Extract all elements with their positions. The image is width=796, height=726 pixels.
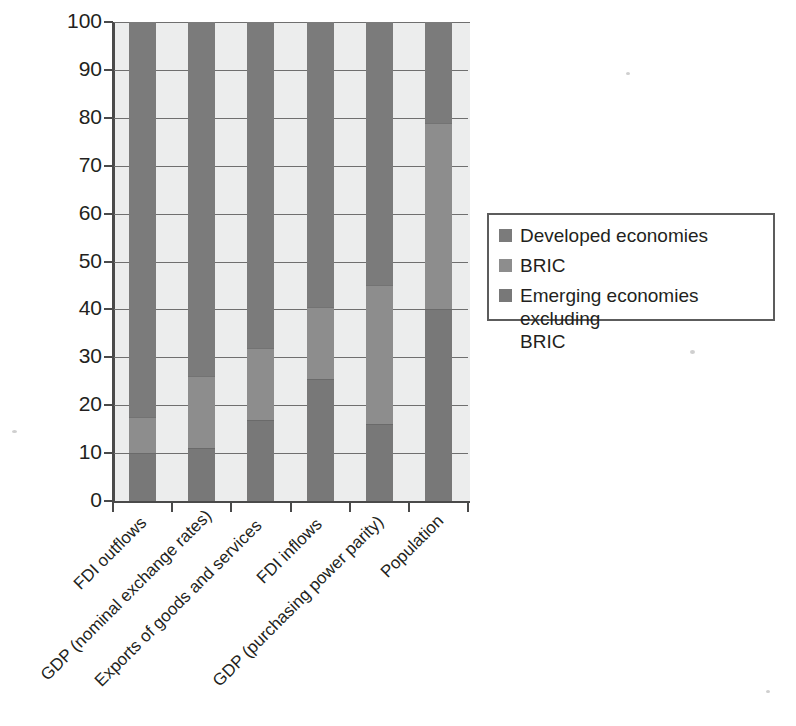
bar-gdp-purchasing-power-parity[interactable] [366,22,393,501]
segment-divider [129,453,156,454]
bar-segment-emerging [129,453,156,501]
legend-swatch-icon-developed [499,229,512,242]
y-tick-60 [104,213,113,215]
y-tick-label-30: 30 [58,345,102,366]
segment-divider [425,123,452,124]
segment-divider [307,307,334,308]
scan-speck [626,72,630,75]
legend-item-emerging-economies: Emerging economies excluding BRIC [499,284,763,353]
y-tick-40 [104,308,113,310]
y-tick-100 [104,21,113,23]
bars-layer [113,22,468,501]
segment-divider [307,379,334,380]
segment-divider [247,420,274,421]
y-tick-90 [104,69,113,71]
bar-segment-developed [188,22,215,376]
y-tick-80 [104,117,113,119]
y-tick-10 [104,452,113,454]
bar-segment-developed [366,22,393,285]
y-tick-70 [104,165,113,167]
legend-label-developed: Developed economies [520,224,708,247]
y-tick-label-90: 90 [58,58,102,79]
bar-exports-of-goods-and-services[interactable] [247,22,274,501]
segment-divider [188,448,215,449]
legend-item-developed-economies: Developed economies [499,224,763,247]
bar-segment-emerging [188,448,215,501]
bar-population[interactable] [425,22,452,501]
y-tick-label-20: 20 [58,393,102,414]
legend-item-bric: BRIC [499,254,763,277]
legend-label-emerging-line2: BRIC [520,330,752,353]
bar-segment-bric [425,123,452,310]
y-tick-label-50: 50 [58,250,102,271]
y-tick-label-10: 10 [58,441,102,462]
segment-divider [247,348,274,349]
bar-fdi-outflows[interactable] [129,22,156,501]
segment-divider [129,417,156,418]
bar-segment-developed [129,22,156,417]
segment-divider [366,424,393,425]
bar-segment-bric [129,417,156,453]
segment-divider [425,309,452,310]
y-tick-50 [104,261,113,263]
stacked-bar-chart: 1009080706050403020100 FDI outflowsGDP (… [0,0,796,726]
legend-label-bric: BRIC [520,254,565,277]
legend-label-emerging-line1: Emerging economies excluding [520,285,698,329]
scan-speck [766,690,770,693]
legend: Developed economies BRIC Emerging econom… [487,213,775,321]
bar-segment-bric [307,307,334,379]
bar-segment-developed [425,22,452,123]
x-axis-category-labels: FDI outflowsGDP (nominal exchange rates)… [0,501,796,726]
legend-label-emerging: Emerging economies excluding BRIC [520,284,752,353]
bar-segment-bric [188,376,215,448]
bar-segment-bric [247,348,274,420]
y-tick-30 [104,356,113,358]
y-tick-label-40: 40 [58,297,102,318]
y-tick-label-100: 100 [58,10,102,31]
bar-segment-bric [366,285,393,424]
bar-segment-developed [307,22,334,307]
y-tick-20 [104,404,113,406]
segment-divider [366,285,393,286]
bar-gdp-nominal-exchange-rates[interactable] [188,22,215,501]
legend-swatch-icon-emerging [499,289,512,302]
x-category-label-population: Population [377,511,447,581]
y-tick-label-80: 80 [58,106,102,127]
y-tick-label-60: 60 [58,202,102,223]
bar-segment-emerging [425,309,452,501]
bar-fdi-inflows[interactable] [307,22,334,501]
bar-segment-emerging [366,424,393,501]
bar-segment-developed [247,22,274,348]
bar-segment-emerging [247,420,274,501]
legend-swatch-icon-bric [499,259,512,272]
y-tick-label-70: 70 [58,154,102,175]
bar-segment-emerging [307,379,334,501]
scan-speck [12,430,17,433]
segment-divider [188,376,215,377]
scan-speck [690,350,695,354]
